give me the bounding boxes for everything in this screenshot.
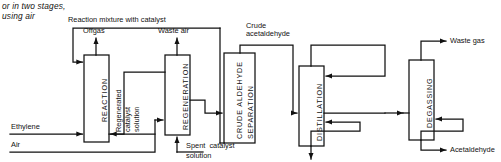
stream-label-regenerated-line3: solution (132, 107, 141, 132)
figure-caption: or in two stages, using air (2, 1, 66, 21)
flow-regeneration-to-separation (190, 100, 222, 113)
stream-label-waste-air: Waste air (158, 27, 189, 35)
unit-label-degassing: DEGASSING (425, 78, 434, 128)
stream-label-spent-catalyst-line2: solution (186, 152, 211, 160)
flow-waste-gas (421, 41, 446, 60)
unit-label-separation-line2: SEPARATION (246, 85, 255, 139)
unit-label-separation-line1: CRUDE ALDEHYDE (235, 61, 244, 139)
unit-label-reaction: REACTION (100, 78, 109, 122)
stream-label-crude-acetaldehyde-line2: acetaldehyde (246, 30, 290, 38)
stream-label-regenerated-line2: catalyst (123, 107, 132, 132)
stream-label-air: Air (11, 141, 20, 149)
stream-label-offgas: Offgas (83, 27, 105, 35)
flow-acetaldehyde-product (421, 140, 446, 150)
stream-label-ethylene: Ethylene (11, 123, 40, 131)
stream-label-waste-gas: Waste gas (450, 37, 485, 45)
stream-label-regenerated-line1: Regenerated (114, 89, 123, 132)
stream-label-acetaldehyde: Acetaldehyde (450, 146, 495, 154)
stream-label-reaction-mixture: Reaction mixture with catalyst (68, 16, 166, 24)
stream-label-spent-catalyst-line1: Spent catalyst (186, 142, 234, 150)
flow-distillation-overhead-loop (311, 45, 385, 76)
unit-label-distillation: DISTILLATION (315, 83, 324, 141)
unit-label-regeneration: REGENERATION (181, 63, 190, 130)
